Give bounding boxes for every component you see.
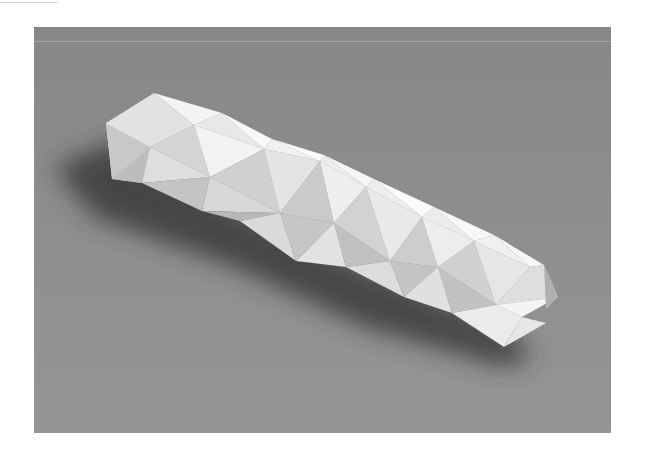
top-edge-line	[0, 2, 58, 3]
photograph	[34, 27, 611, 433]
origami-tube	[34, 27, 611, 433]
